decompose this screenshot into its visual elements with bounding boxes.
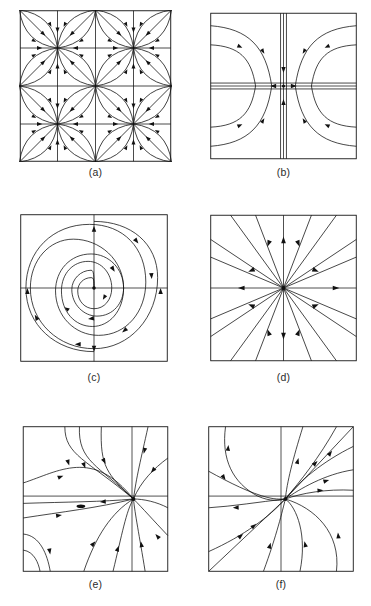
panel-b: (b) [210, 12, 357, 160]
panel-c-plot [18, 214, 170, 362]
phase-portrait-figure-sheet: (a) [0, 0, 371, 606]
panel-c-caption: (c) [18, 371, 170, 383]
panel-e: (e) [18, 426, 173, 572]
panel-a-plot [18, 10, 173, 162]
panel-a-caption: (a) [18, 166, 173, 178]
panel-b-caption: (b) [210, 166, 357, 178]
panel-d-caption: (d) [210, 371, 357, 383]
panel-e-plot [18, 426, 173, 572]
panel-f-plot [206, 426, 356, 572]
panel-e-caption: (e) [18, 578, 173, 590]
panel-f: (f) [206, 426, 356, 572]
panel-a: (a) [18, 10, 173, 162]
panel-f-caption: (f) [206, 578, 356, 590]
panel-b-plot [210, 12, 357, 160]
panel-c: (c) [18, 214, 170, 362]
panel-d: (d) [210, 214, 357, 362]
panel-d-plot [210, 214, 357, 362]
